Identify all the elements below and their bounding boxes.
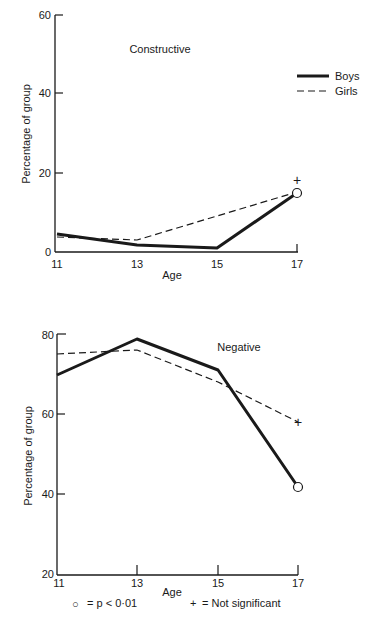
x-tick-label: 15: [212, 577, 224, 589]
y-tick-label: 80: [42, 329, 54, 341]
y-tick-label: 60: [39, 9, 51, 21]
series-boys-line: [57, 339, 298, 487]
circle-meaning: = p < 0·01: [87, 597, 137, 609]
x-tick-label: 13: [131, 577, 143, 589]
series-girls-line: [57, 350, 298, 422]
series-boys-line: [57, 193, 297, 248]
x-tick-label: 13: [131, 258, 143, 270]
legend: Boys Girls: [297, 70, 360, 97]
significance-circle-marker: [293, 189, 302, 198]
legend-girls-label: Girls: [335, 85, 358, 97]
y-tick-label: 40: [39, 87, 51, 99]
y-tick-label: 0: [45, 246, 51, 258]
chart-constructive: 60 40 20 0 11 13 15 17 Age Percentage of…: [20, 9, 360, 281]
x-tick-label: 17: [291, 258, 303, 270]
x-axis-title: Age: [162, 586, 182, 598]
footnote: ○ = p < 0·01 + = Not significant: [72, 597, 281, 610]
x-tick-label: 11: [53, 577, 64, 589]
x-tick-label: 11: [51, 258, 62, 270]
not-significant-plus-marker: +: [293, 172, 301, 188]
legend-boys-label: Boys: [335, 70, 360, 82]
y-axis-title: Percentage of group: [22, 406, 34, 506]
chart-title: Negative: [217, 341, 260, 353]
y-tick-label: 40: [42, 488, 54, 500]
y-tick-label: 20: [39, 167, 51, 179]
chart-negative: 80 60 40 20 11 13 15 17 Age Percentage o…: [22, 329, 304, 598]
chart-title: Constructive: [129, 43, 190, 55]
plus-symbol: +: [190, 597, 196, 609]
circle-symbol: ○: [72, 598, 79, 610]
significance-circle-marker: [294, 483, 303, 492]
y-tick-label: 20: [42, 568, 54, 580]
x-axis-title: Age: [162, 269, 182, 281]
y-tick-label: 60: [42, 408, 54, 420]
y-axis-title: Percentage of group: [20, 84, 32, 184]
x-tick-label: 17: [292, 577, 304, 589]
x-tick-label: 15: [211, 258, 223, 270]
not-significant-plus-marker: +: [294, 414, 302, 430]
plus-meaning: = Not significant: [202, 597, 281, 609]
figure: 60 40 20 0 11 13 15 17 Age Percentage of…: [0, 0, 368, 623]
